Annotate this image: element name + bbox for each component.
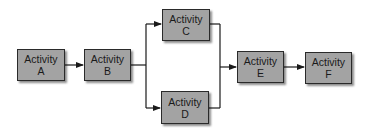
node-id: D <box>181 108 189 120</box>
activity-network-diagram: Activity A Activity B Activity C Activit… <box>0 0 370 131</box>
node-label: Activity <box>169 13 202 25</box>
node-id: E <box>257 67 264 79</box>
node-label: Activity <box>168 96 201 108</box>
node-id: B <box>104 65 111 77</box>
activity-node-e: Activity E <box>237 51 284 83</box>
node-label: Activity <box>312 56 345 68</box>
activity-node-b: Activity B <box>84 49 131 81</box>
activity-node-c: Activity C <box>162 9 210 41</box>
node-label: Activity <box>24 53 57 65</box>
node-id: A <box>37 65 44 77</box>
node-id: C <box>182 25 190 37</box>
activity-node-f: Activity F <box>305 52 352 84</box>
activity-node-a: Activity A <box>17 49 65 81</box>
node-label: Activity <box>244 55 277 67</box>
node-id: F <box>325 68 331 80</box>
node-label: Activity <box>91 53 124 65</box>
activity-node-d: Activity D <box>161 91 209 124</box>
